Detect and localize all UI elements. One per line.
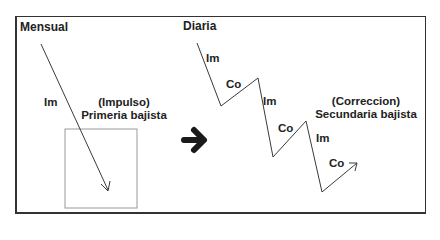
monthly-caption: (Impulso) Primeria bajista xyxy=(77,96,171,122)
daily-wave-label-4: Co xyxy=(278,122,293,135)
monthly-arrowhead-icon xyxy=(101,181,110,191)
daily-wave-label-5: Im xyxy=(316,132,329,145)
daily-caption-line1: (Correccion) xyxy=(310,95,422,108)
daily-wave-label-3: Im xyxy=(263,95,276,108)
monthly-caption-line2: Primeria bajista xyxy=(77,109,171,122)
daily-wave-label-2: Co xyxy=(226,78,241,91)
monthly-wave-label: Im xyxy=(44,96,57,109)
daily-caption: (Correccion) Secundaria bajista xyxy=(310,95,422,121)
right-arrow-icon xyxy=(184,130,204,150)
daily-wave-label-1: Im xyxy=(206,52,219,65)
monthly-caption-line1: (Impulso) xyxy=(77,96,171,109)
daily-title: Diaria xyxy=(183,20,216,34)
daily-caption-line2: Secundaria bajista xyxy=(310,108,422,121)
daily-wave-label-6: Co xyxy=(329,157,344,170)
primary-trend-box xyxy=(65,129,137,208)
monthly-title: Mensual xyxy=(20,21,68,35)
